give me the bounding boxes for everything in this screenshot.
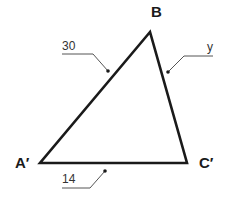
side-label-b-c-prime: y bbox=[207, 40, 213, 54]
leader-side-a-prime-b: 30 bbox=[62, 39, 110, 73]
leader-dot bbox=[106, 69, 110, 73]
vertex-label-c-prime: C′ bbox=[199, 154, 214, 171]
side-label-a-prime-c-prime: 14 bbox=[62, 172, 76, 186]
leader-dot bbox=[166, 70, 170, 74]
side-label-a-prime-b: 30 bbox=[62, 39, 76, 53]
leader-line bbox=[168, 56, 213, 72]
leader-side-b-c-prime: y bbox=[166, 40, 213, 74]
leader-line bbox=[62, 54, 108, 71]
vertex-label-a-prime: A′ bbox=[15, 154, 30, 171]
leader-side-a-prime-c-prime: 14 bbox=[62, 169, 107, 188]
triangle-diagram: B A′ C′ 30 y 14 bbox=[0, 0, 231, 213]
leader-dot bbox=[103, 169, 107, 173]
vertex-label-b: B bbox=[151, 3, 162, 20]
